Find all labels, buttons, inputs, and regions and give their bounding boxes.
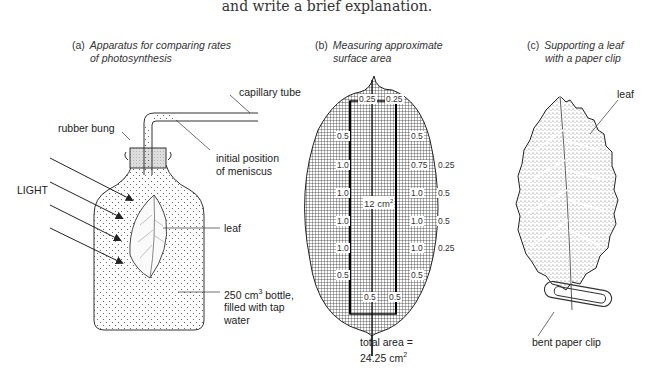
grid-value: 0.25	[358, 94, 377, 104]
label-light: LIGHT	[17, 184, 48, 197]
center-area-sup: 2	[390, 198, 393, 204]
grid-value: 0.5	[336, 131, 350, 141]
center-area-label: 12 cm2	[363, 196, 394, 209]
grid-value: 1.0	[336, 160, 350, 170]
grid-value: 0.5	[410, 270, 424, 280]
label-paper-clip: bent paper clip	[532, 336, 601, 349]
grid-value: 0.75	[410, 160, 429, 170]
grid-value: 1.0	[336, 216, 350, 226]
center-area-value: 12 cm	[364, 198, 390, 209]
total-area-sup: 2	[403, 351, 407, 358]
grid-value: 0.5	[410, 131, 424, 141]
grid-value: 1.0	[410, 216, 424, 226]
grid-value: 0.25	[437, 160, 456, 170]
label-bottle-2: filled with tap	[224, 301, 285, 313]
grid-value: 1.0	[336, 188, 350, 198]
label-capillary-tube: capillary tube	[239, 86, 301, 99]
label-bottle-3: water	[224, 314, 250, 326]
grid-value: 1.0	[410, 188, 424, 198]
label-bottle: 250 cm3 bottle, filled with tap water	[224, 286, 294, 326]
label-leaf-a: leaf	[224, 222, 241, 235]
total-area-line-1: total area =	[360, 336, 413, 348]
label-meniscus-2: of meniscus	[216, 165, 272, 177]
total-area-line-2: 24.25 cm	[360, 351, 403, 363]
label-bottle-1b: bottle,	[262, 289, 294, 301]
label-meniscus-1: initial position	[216, 152, 279, 164]
label-rubber-bung: rubber bung	[58, 122, 115, 135]
label-leaf-c: leaf	[617, 88, 634, 101]
grid-value: 1.0	[410, 243, 424, 253]
label-meniscus: initial position of meniscus	[216, 152, 279, 177]
grid-value: 0.25	[437, 243, 456, 253]
total-area: total area = 24.25 cm2	[360, 336, 413, 364]
grid-value: 0.5	[363, 292, 377, 302]
grid-value: 1.0	[336, 243, 350, 253]
grid-value: 0.5	[437, 188, 451, 198]
grid-value: 0.5	[388, 292, 402, 302]
serrated-leaf	[516, 4, 618, 336]
grid-value: 0.5	[437, 216, 451, 226]
grid-value: 0.5	[336, 270, 350, 280]
grid-value: 0.25	[385, 94, 404, 104]
figure-drawings	[0, 0, 654, 370]
label-bottle-1: 250 cm	[224, 289, 258, 301]
